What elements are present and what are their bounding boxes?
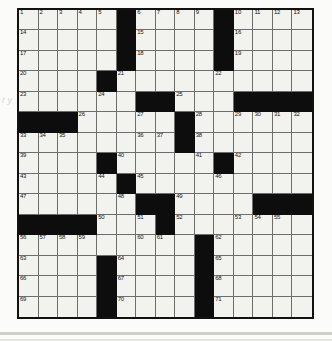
crossword-cell[interactable]: 24 <box>97 92 117 112</box>
crossword-cell[interactable]: 70 <box>117 297 137 317</box>
crossword-cell[interactable]: 66 <box>19 276 39 296</box>
crossword-cell[interactable]: 56 <box>19 235 39 255</box>
crossword-cell[interactable] <box>78 92 98 112</box>
crossword-cell[interactable] <box>117 92 137 112</box>
crossword-cell[interactable] <box>214 112 234 132</box>
crossword-cell[interactable]: 67 <box>117 276 137 296</box>
crossword-cell[interactable]: 11 <box>253 10 273 30</box>
crossword-cell[interactable] <box>214 133 234 153</box>
crossword-cell[interactable] <box>58 51 78 71</box>
crossword-cell[interactable] <box>292 174 312 194</box>
crossword-cell[interactable] <box>253 276 273 296</box>
crossword-cell[interactable]: 44 <box>97 174 117 194</box>
crossword-cell[interactable]: 26 <box>78 112 98 132</box>
crossword-cell[interactable] <box>214 92 234 112</box>
crossword-cell[interactable] <box>292 71 312 91</box>
crossword-cell[interactable] <box>78 153 98 173</box>
crossword-cell[interactable] <box>292 297 312 317</box>
crossword-cell[interactable] <box>195 92 215 112</box>
crossword-cell[interactable] <box>58 30 78 50</box>
crossword-cell[interactable] <box>39 297 59 317</box>
crossword-cell[interactable]: 17 <box>19 51 39 71</box>
crossword-cell[interactable] <box>97 235 117 255</box>
crossword-cell[interactable] <box>175 71 195 91</box>
crossword-cell[interactable] <box>175 153 195 173</box>
crossword-cell[interactable] <box>136 256 156 276</box>
crossword-cell[interactable]: 4 <box>78 10 98 30</box>
crossword-cell[interactable] <box>195 194 215 214</box>
crossword-cell[interactable] <box>253 297 273 317</box>
crossword-cell[interactable]: 57 <box>39 235 59 255</box>
crossword-cell[interactable] <box>39 51 59 71</box>
crossword-cell[interactable]: 22 <box>214 71 234 91</box>
crossword-cell[interactable]: 29 <box>234 112 254 132</box>
crossword-cell[interactable]: 9 <box>195 10 215 30</box>
crossword-cell[interactable] <box>273 71 293 91</box>
crossword-cell[interactable] <box>292 30 312 50</box>
crossword-cell[interactable]: 60 <box>136 235 156 255</box>
crossword-cell[interactable] <box>292 51 312 71</box>
crossword-cell[interactable]: 6 <box>136 10 156 30</box>
crossword-cell[interactable] <box>234 174 254 194</box>
crossword-cell[interactable] <box>175 30 195 50</box>
crossword-cell[interactable] <box>253 256 273 276</box>
crossword-cell[interactable] <box>97 30 117 50</box>
crossword-cell[interactable] <box>97 112 117 132</box>
crossword-cell[interactable] <box>97 133 117 153</box>
crossword-cell[interactable] <box>234 297 254 317</box>
crossword-cell[interactable]: 69 <box>19 297 39 317</box>
crossword-cell[interactable]: 59 <box>78 235 98 255</box>
crossword-cell[interactable]: 12 <box>273 10 293 30</box>
crossword-cell[interactable]: 50 <box>97 215 117 235</box>
crossword-cell[interactable]: 53 <box>234 215 254 235</box>
crossword-cell[interactable] <box>156 256 176 276</box>
crossword-cell[interactable] <box>78 133 98 153</box>
crossword-cell[interactable]: 34 <box>39 133 59 153</box>
crossword-cell[interactable] <box>117 215 137 235</box>
crossword-cell[interactable] <box>117 112 137 132</box>
crossword-cell[interactable]: 35 <box>58 133 78 153</box>
crossword-cell[interactable]: 46 <box>214 174 234 194</box>
crossword-cell[interactable] <box>292 153 312 173</box>
crossword-cell[interactable]: 3 <box>58 10 78 30</box>
crossword-cell[interactable] <box>234 71 254 91</box>
crossword-cell[interactable] <box>117 133 137 153</box>
crossword-cell[interactable] <box>78 256 98 276</box>
crossword-cell[interactable] <box>175 256 195 276</box>
crossword-cell[interactable] <box>156 297 176 317</box>
crossword-cell[interactable] <box>273 276 293 296</box>
crossword-cell[interactable]: 63 <box>19 256 39 276</box>
crossword-cell[interactable]: 43 <box>19 174 39 194</box>
crossword-cell[interactable]: 37 <box>156 133 176 153</box>
crossword-cell[interactable] <box>214 215 234 235</box>
crossword-cell[interactable] <box>58 276 78 296</box>
crossword-cell[interactable] <box>234 276 254 296</box>
crossword-cell[interactable]: 45 <box>136 174 156 194</box>
crossword-cell[interactable]: 7 <box>156 10 176 30</box>
crossword-cell[interactable] <box>39 194 59 214</box>
crossword-cell[interactable]: 23 <box>19 92 39 112</box>
crossword-cell[interactable] <box>253 71 273 91</box>
crossword-cell[interactable]: 28 <box>195 112 215 132</box>
crossword-cell[interactable] <box>292 276 312 296</box>
crossword-cell[interactable]: 68 <box>214 276 234 296</box>
crossword-cell[interactable] <box>58 194 78 214</box>
crossword-cell[interactable] <box>156 153 176 173</box>
crossword-cell[interactable] <box>195 51 215 71</box>
crossword-cell[interactable] <box>292 256 312 276</box>
crossword-cell[interactable] <box>156 51 176 71</box>
crossword-cell[interactable]: 16 <box>234 30 254 50</box>
crossword-grid[interactable]: 1234567891011121314151617181920212223242… <box>17 8 314 319</box>
crossword-cell[interactable] <box>175 276 195 296</box>
crossword-cell[interactable] <box>39 92 59 112</box>
crossword-cell[interactable]: 15 <box>136 30 156 50</box>
crossword-cell[interactable] <box>136 297 156 317</box>
crossword-cell[interactable]: 52 <box>175 215 195 235</box>
crossword-cell[interactable] <box>253 153 273 173</box>
crossword-cell[interactable]: 13 <box>292 10 312 30</box>
crossword-cell[interactable] <box>273 30 293 50</box>
crossword-cell[interactable] <box>175 235 195 255</box>
crossword-cell[interactable]: 5 <box>97 10 117 30</box>
crossword-cell[interactable] <box>156 276 176 296</box>
crossword-cell[interactable]: 54 <box>253 215 273 235</box>
